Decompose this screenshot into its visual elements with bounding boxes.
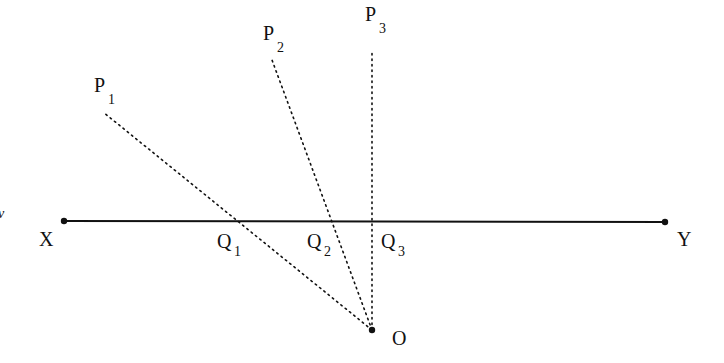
geometry-diagram: X Y O P 1 P 2 P 3 Q 1 Q 2 Q 3 v	[0, 0, 724, 363]
edge-fragment: v	[0, 206, 5, 221]
label-p2-sub: 2	[277, 40, 284, 55]
label-y: Y	[677, 228, 691, 250]
label-q2: Q	[307, 230, 322, 252]
label-q1-sub: 1	[234, 244, 241, 259]
label-p2: P	[263, 22, 274, 44]
label-x: X	[39, 228, 54, 250]
label-q1: Q	[217, 230, 232, 252]
label-p3-sub: 3	[379, 21, 386, 36]
label-p3: P	[365, 3, 376, 25]
point-y	[662, 219, 668, 225]
ray-o-p2	[272, 60, 372, 330]
point-o	[369, 327, 375, 333]
line-xy	[64, 221, 665, 222]
label-o: O	[392, 327, 406, 349]
point-x	[61, 218, 67, 224]
label-p1: P	[94, 74, 105, 96]
label-q2-sub: 2	[324, 244, 331, 259]
label-p1-sub: 1	[108, 92, 115, 107]
label-q3: Q	[381, 230, 396, 252]
label-q3-sub: 3	[398, 244, 405, 259]
